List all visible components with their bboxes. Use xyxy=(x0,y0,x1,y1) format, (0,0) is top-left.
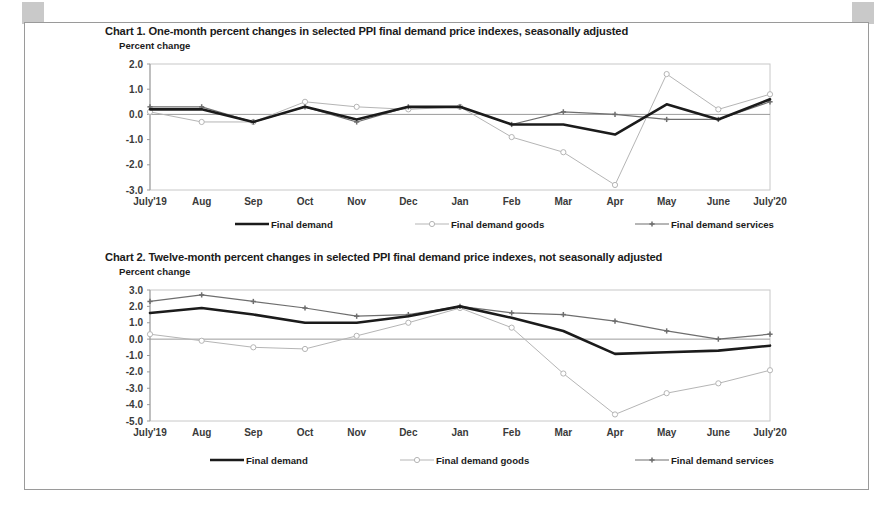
series-marker xyxy=(199,292,204,297)
x-axis-month-label: Oct xyxy=(297,427,314,438)
series-marker xyxy=(354,104,359,109)
series-marker xyxy=(716,337,721,342)
x-axis-month-label: June xyxy=(707,427,731,438)
y-tick-label: -5.0 xyxy=(126,416,144,427)
y-tick-label: 3.0 xyxy=(129,285,143,296)
y-tick-label: -1.0 xyxy=(126,350,144,361)
chart-1-title: Chart 1. One-month percent changes in se… xyxy=(105,25,825,37)
series-marker xyxy=(147,299,152,304)
x-axis-month-label: Nov xyxy=(347,196,366,207)
x-axis-month-label: Jan xyxy=(451,196,468,207)
x-axis-month-label: June xyxy=(707,196,731,207)
series-line xyxy=(150,308,770,414)
x-axis-month-label: Nov xyxy=(347,427,366,438)
x-axis-month-label: Apr xyxy=(606,196,623,207)
series-marker xyxy=(664,328,669,333)
series-marker xyxy=(509,325,514,330)
y-tick-label: 2.0 xyxy=(129,301,143,312)
x-axis-month-label: Oct xyxy=(297,196,314,207)
legend-label: Final demand services xyxy=(671,219,774,230)
chart-2-block: Chart 2. Twelve-month percent changes in… xyxy=(105,251,825,481)
legend-item: Final demand services xyxy=(635,219,774,230)
x-axis-month-label: Aug xyxy=(192,196,211,207)
x-axis-month-label: Mar xyxy=(554,196,572,207)
y-tick-label: 0.0 xyxy=(129,334,143,345)
x-axis-month-label: July'20 xyxy=(753,196,787,207)
y-tick-label: 1.0 xyxy=(129,317,143,328)
series-marker xyxy=(354,314,359,319)
legend-item: Final demand xyxy=(235,219,333,230)
series-marker xyxy=(716,107,721,112)
x-axis-month-label: Sep xyxy=(244,427,262,438)
x-axis-month-label: Dec xyxy=(399,196,418,207)
series-marker xyxy=(561,312,566,317)
chart-1-block: Chart 1. One-month percent changes in se… xyxy=(105,25,825,253)
x-axis-month-label: July'20 xyxy=(753,427,787,438)
series-marker xyxy=(302,346,307,351)
series-marker xyxy=(406,320,411,325)
series-marker xyxy=(354,333,359,338)
chart-1-plot: 2.01.00.0-1.0-2.0-3.0July'19AugSepOctNov… xyxy=(105,52,805,248)
x-axis-month-label: Sep xyxy=(244,196,262,207)
y-tick-label: -3.0 xyxy=(126,383,144,394)
series-marker xyxy=(561,371,566,376)
x-axis-month-label: Aug xyxy=(192,427,211,438)
series-marker xyxy=(612,182,617,187)
series-marker xyxy=(199,119,204,124)
series-marker xyxy=(612,319,617,324)
series-marker xyxy=(561,109,566,114)
legend-label: Final demand xyxy=(246,455,308,466)
series-marker xyxy=(664,71,669,76)
chart-1-ylabel: Percent change xyxy=(119,40,825,51)
y-tick-label: -4.0 xyxy=(126,399,144,410)
series-line xyxy=(150,74,770,185)
series-line xyxy=(150,295,770,339)
series-marker xyxy=(612,412,617,417)
legend-item: Final demand goods xyxy=(400,455,529,466)
x-axis-month-label: Dec xyxy=(399,427,418,438)
series-marker xyxy=(767,332,772,337)
series-marker xyxy=(561,150,566,155)
series-marker xyxy=(302,99,307,104)
legend-label: Final demand goods xyxy=(451,219,544,230)
y-tick-label: 1.0 xyxy=(129,84,143,95)
chart-2-ylabel: Percent change xyxy=(119,266,825,277)
x-axis-month-label: Feb xyxy=(503,427,521,438)
legend-label: Final demand goods xyxy=(436,455,529,466)
y-tick-label: 0.0 xyxy=(129,109,143,120)
series-marker xyxy=(612,112,617,117)
y-tick-label: -3.0 xyxy=(126,185,144,196)
x-axis-month-label: Apr xyxy=(606,427,623,438)
corner-mark-left xyxy=(22,2,44,24)
document-frame: Chart 1. One-month percent changes in se… xyxy=(24,22,869,490)
legend-item: Final demand goods xyxy=(415,219,544,230)
series-line xyxy=(150,306,770,353)
series-marker xyxy=(147,332,152,337)
x-axis-month-label: Jan xyxy=(451,427,468,438)
x-axis-month-label: July'19 xyxy=(133,427,167,438)
chart-2-plot: 3.02.01.00.0-1.0-2.0-3.0-4.0-5.0July'19A… xyxy=(105,278,805,478)
series-marker xyxy=(509,134,514,139)
legend-item: Final demand xyxy=(210,455,308,466)
legend-label: Final demand xyxy=(271,219,333,230)
x-axis-month-label: May xyxy=(657,427,677,438)
series-marker xyxy=(664,117,669,122)
series-marker xyxy=(199,338,204,343)
series-marker xyxy=(509,310,514,315)
series-marker xyxy=(716,381,721,386)
legend-item: Final demand services xyxy=(635,455,774,466)
y-tick-label: -2.0 xyxy=(126,159,144,170)
series-marker xyxy=(767,368,772,373)
x-axis-month-label: Mar xyxy=(554,427,572,438)
series-marker xyxy=(251,345,256,350)
y-tick-label: -2.0 xyxy=(126,366,144,377)
x-axis-month-label: May xyxy=(657,196,677,207)
series-marker xyxy=(251,299,256,304)
series-marker xyxy=(664,391,669,396)
series-marker xyxy=(767,92,772,97)
y-tick-label: 2.0 xyxy=(129,59,143,70)
x-axis-month-label: July'19 xyxy=(133,196,167,207)
plot-area xyxy=(150,64,770,190)
chart-2-title: Chart 2. Twelve-month percent changes in… xyxy=(105,251,825,263)
legend-label: Final demand services xyxy=(671,455,774,466)
